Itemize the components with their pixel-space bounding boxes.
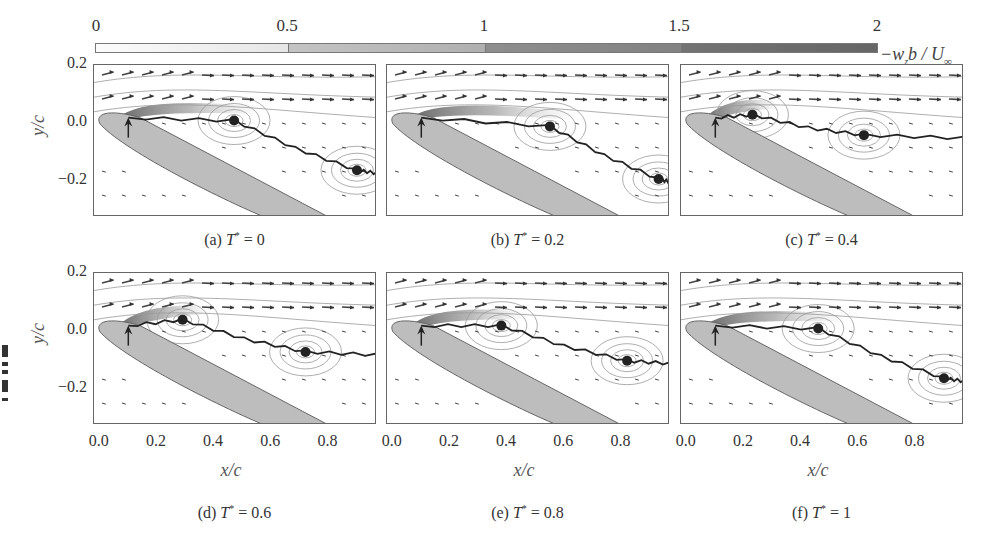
- flow-field-plot: [681, 273, 963, 424]
- panel-b: [386, 64, 669, 216]
- panel-c: [680, 64, 963, 216]
- colorbar-label-rest: b / U: [908, 44, 944, 64]
- vortex-core-marker: [747, 110, 757, 120]
- airfoil-shape: [99, 113, 334, 216]
- colorbar-tick-2: 2: [873, 16, 882, 36]
- vortex-core-marker: [622, 356, 632, 366]
- y-tick-0.2: 0.2: [47, 262, 87, 280]
- panel-caption-d: (d) T* = 0.6: [198, 503, 272, 522]
- panel-a: [93, 64, 376, 216]
- flow-field-plot: [94, 65, 376, 216]
- colorbar-tick-1.5: 1.5: [668, 16, 689, 36]
- x-tick-0.0: 0.0: [382, 432, 402, 450]
- vortex-core-marker: [859, 130, 869, 140]
- vortex-core-marker: [813, 324, 823, 334]
- colorbar-tick-1: 1: [480, 16, 489, 36]
- y-tick-0.0: 0.0: [47, 320, 87, 338]
- x-tick-0.6: 0.6: [260, 432, 280, 450]
- x-axis-label: x/c: [514, 460, 535, 481]
- colorbar-segment-2: [288, 43, 486, 53]
- side-mark: [2, 345, 8, 357]
- colorbar-tick-0: 0: [92, 16, 101, 36]
- panel-caption-a: (a) T* = 0: [204, 230, 265, 249]
- x-tick-0.4: 0.4: [790, 432, 810, 450]
- vortex-core-marker: [496, 321, 506, 331]
- side-mark: [2, 398, 8, 401]
- x-axis-label: x/c: [221, 460, 242, 481]
- panel-f: [680, 272, 963, 424]
- flow-field-plot: [387, 65, 669, 216]
- colorbar-label-main: −w: [880, 44, 904, 64]
- x-tick-0.4: 0.4: [496, 432, 516, 450]
- x-tick-0.2: 0.2: [733, 432, 753, 450]
- vortex-core-marker: [545, 121, 555, 131]
- x-tick-0.4: 0.4: [203, 432, 223, 450]
- colorbar-segment-4: [681, 43, 878, 53]
- y-axis-label-top: y/c: [28, 115, 49, 136]
- airfoil-shape: [686, 321, 921, 424]
- flow-field-plot: [681, 65, 963, 216]
- vortex-core-marker: [178, 315, 188, 325]
- x-tick-0.6: 0.6: [553, 432, 573, 450]
- airfoil-shape: [392, 321, 627, 424]
- x-tick-0.8: 0.8: [317, 432, 337, 450]
- airfoil-shape: [686, 113, 921, 216]
- x-tick-0.0: 0.0: [676, 432, 696, 450]
- panel-caption-b: (b) T* = 0.2: [491, 230, 565, 249]
- vortex-core-marker: [939, 373, 949, 383]
- colorbar-tick-0.5: 0.5: [276, 16, 297, 36]
- panel-caption-e: (e) T* = 0.8: [491, 503, 564, 522]
- vortex-core-marker: [229, 116, 239, 126]
- y-tick-neg0.2: −0.2: [47, 378, 87, 396]
- colorbar-segment-1: [95, 43, 289, 53]
- x-tick-0.0: 0.0: [89, 432, 109, 450]
- y-tick-neg0.2: −0.2: [47, 170, 87, 188]
- x-tick-0.2: 0.2: [146, 432, 166, 450]
- y-tick-0.0: 0.0: [47, 112, 87, 130]
- x-tick-0.8: 0.8: [904, 432, 924, 450]
- side-mark: [2, 380, 8, 392]
- panel-e: [386, 272, 669, 424]
- airfoil-shape: [99, 321, 334, 424]
- vortex-core-marker: [654, 174, 664, 184]
- panel-caption-c: (c) T* = 0.4: [785, 230, 858, 249]
- x-tick-0.6: 0.6: [847, 432, 867, 450]
- panel-d: [93, 272, 376, 424]
- side-mark: [2, 370, 8, 374]
- y-axis-label-bottom: y/c: [28, 323, 49, 344]
- x-axis-label: x/c: [808, 460, 829, 481]
- x-tick-0.2: 0.2: [439, 432, 459, 450]
- side-mark: [2, 362, 8, 366]
- colorbar-segment-3: [485, 43, 682, 53]
- y-tick-0.2: 0.2: [47, 54, 87, 72]
- vortex-core-marker: [352, 165, 362, 175]
- airfoil-shape: [392, 113, 627, 216]
- flow-field-plot: [387, 273, 669, 424]
- flow-field-plot: [94, 273, 376, 424]
- x-tick-0.8: 0.8: [610, 432, 630, 450]
- vortex-core-marker: [301, 347, 311, 357]
- panel-caption-f: (f) T* = 1: [792, 503, 851, 522]
